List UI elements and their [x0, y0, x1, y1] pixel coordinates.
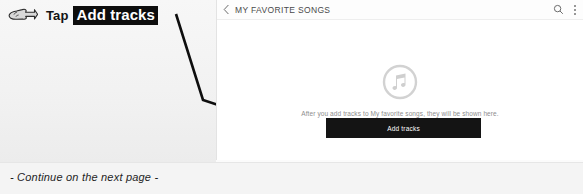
tutorial-page: Tap Add tracks MY FAVORITE SONGS [0, 0, 583, 194]
add-tracks-button[interactable]: Add tracks [326, 118, 481, 138]
footer-area: - Continue on the next page - [0, 163, 583, 194]
search-icon[interactable] [553, 4, 564, 15]
music-note-circle-icon [381, 63, 419, 101]
app-bar-title: MY FAVORITE SONGS [235, 5, 553, 15]
app-bar: MY FAVORITE SONGS [217, 0, 583, 20]
pointing-hand-icon [8, 5, 38, 25]
instruction-action-word: Tap [46, 8, 68, 23]
overflow-menu-icon[interactable] [573, 4, 577, 16]
empty-state-message: After you add tracks to My favorite song… [301, 110, 498, 117]
app-screenshot-panel: MY FAVORITE SONGS After you add tracks t… [216, 0, 583, 160]
instruction-row: Tap Add tracks [8, 4, 158, 26]
highlighted-target-label: Add tracks [73, 6, 158, 25]
instruction-area: Tap Add tracks [0, 0, 216, 162]
continue-note: - Continue on the next page - [10, 171, 158, 183]
back-chevron-icon[interactable] [222, 4, 231, 15]
empty-state: After you add tracks to My favorite song… [217, 19, 583, 160]
